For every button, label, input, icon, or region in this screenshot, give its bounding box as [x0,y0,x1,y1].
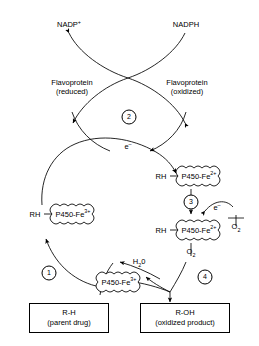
arc-flavo-reduced-down [72,112,110,151]
substrate-box-subtitle: (parent drug) [33,318,105,328]
label-water: H20 [133,257,146,266]
substrate-box-title: R-H [33,308,105,318]
product-box-title: R-OH [144,308,226,318]
label-flavoprotein-reduced: Flavoprotein (reduced) [51,78,92,96]
label-rh-p450-fe2-upper-right: P450-Fe2+ [182,172,217,181]
step-marker-2: 2 [122,110,137,125]
arc-to-h2o [146,277,170,292]
arrow-flavo-oxidized-down [150,112,186,151]
step-marker-3: 3 [184,195,199,210]
substrate-box: R-H (parent drug) [29,303,109,333]
label-rh-p450-fe3-left: P450-Fe3+ [56,210,91,219]
p450-cycle-diagram [0,0,259,346]
label-nadp-oxidized: NADP+ [57,20,81,29]
label-flavoprotein-oxidized: Flavoprotein (oxidized) [166,78,207,96]
label-substrate-rh-lower-right: RH [156,226,167,235]
arc-step4-descend [170,262,186,292]
label-rh-p450-fe2-lower-right: P450-Fe2+ [182,226,217,235]
arc-step4-core [187,262,195,290]
arrow-nadph-input [128,33,185,78]
label-electron-top: e– [124,142,131,151]
product-box: R-OH (oxidized product) [140,303,230,333]
label-p450-fe3-bottom: P450-Fe3+ [102,278,137,287]
label-electron-step3: e– [213,203,220,212]
label-oxygen-lower: O2 [187,247,196,256]
label-oxygen-upper: O2 [232,222,241,231]
product-box-subtitle: (oxidized product) [144,318,226,328]
label-substrate-rh-upper-right: RH [156,172,167,181]
step-marker-4: 4 [198,270,213,285]
label-nadph: NADPH [173,20,199,29]
label-substrate-rh-left: RH [30,210,41,219]
arrow-nadp-release [69,33,128,78]
step-marker-1: 1 [42,266,57,281]
